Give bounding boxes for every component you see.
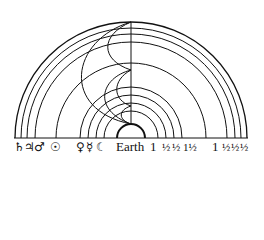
- scale-label: ½: [162, 140, 170, 154]
- scale-label: ½: [222, 140, 230, 154]
- scale-label: ½: [231, 140, 239, 154]
- earth-circle: [117, 124, 145, 138]
- mars-symbol-icon: ♂: [34, 140, 45, 154]
- scale-label: ½: [172, 140, 180, 154]
- scale-label: 1: [150, 140, 157, 154]
- scale-label: 1: [212, 140, 219, 154]
- mercury-symbol-icon: ☿: [86, 140, 93, 154]
- earth-label: Earth: [116, 140, 144, 154]
- scale-label: 1½: [183, 140, 197, 154]
- epicycle-inner-2: [121, 106, 131, 124]
- sun-symbol-icon: ☉: [50, 140, 61, 154]
- scale-label: ½: [240, 140, 248, 154]
- venus-symbol-icon: ♀: [76, 140, 85, 154]
- moon-symbol-icon: ☾: [96, 140, 107, 154]
